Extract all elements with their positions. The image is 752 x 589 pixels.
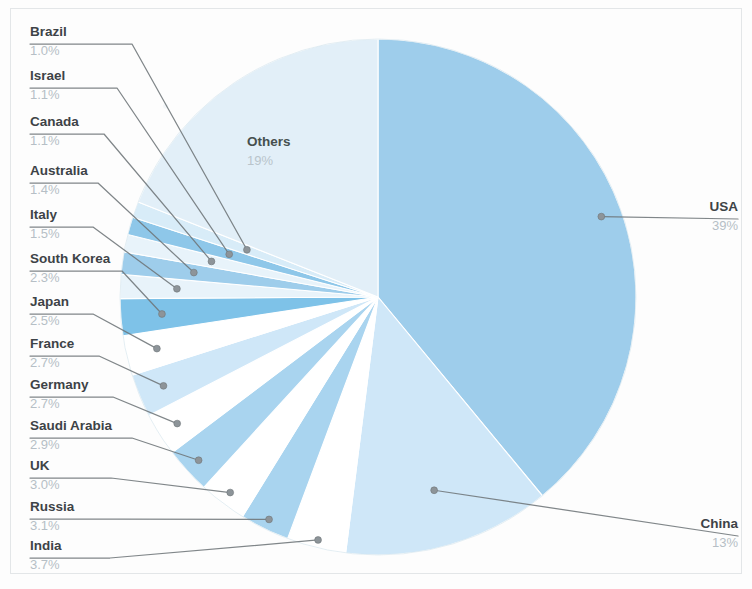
label-australia[interactable]: Australia 1.4% xyxy=(30,163,88,197)
label-japan[interactable]: Japan 2.5% xyxy=(30,294,69,328)
label-uk-pct: 3.0% xyxy=(30,477,60,492)
leader-line-india xyxy=(30,540,318,558)
leader-dot-saudi-arabia xyxy=(195,457,202,464)
label-australia-pct: 1.4% xyxy=(30,182,60,197)
label-japan-pct: 2.5% xyxy=(30,313,60,328)
leader-dot-france xyxy=(160,382,167,389)
pie-chart-screenshot: Brazil 1.0% Israel 1.1% Canada 1.1% Aust… xyxy=(0,0,752,589)
pie-chart: Brazil 1.0% Israel 1.1% Canada 1.1% Aust… xyxy=(0,0,752,589)
leader-dot-israel xyxy=(226,251,233,258)
leader-dot-south-korea xyxy=(159,311,166,318)
label-canada-name: Canada xyxy=(30,114,79,129)
label-others-name: Others xyxy=(247,134,291,149)
leader-dot-canada xyxy=(208,258,215,265)
pie-slices-group xyxy=(120,39,636,555)
label-uk-name: UK xyxy=(30,458,50,473)
leader-dot-usa xyxy=(598,213,605,220)
label-canada-pct: 1.1% xyxy=(30,133,60,148)
label-israel[interactable]: Israel 1.1% xyxy=(30,68,65,102)
leader-dot-china xyxy=(431,487,438,494)
label-south-korea-name: South Korea xyxy=(30,251,111,266)
label-india[interactable]: India 3.7% xyxy=(30,538,62,572)
label-saudi-arabia[interactable]: Saudi Arabia 2.9% xyxy=(30,418,113,452)
label-china-name: China xyxy=(700,516,738,531)
label-japan-name: Japan xyxy=(30,294,69,309)
label-germany-pct: 2.7% xyxy=(30,396,60,411)
label-brazil-name: Brazil xyxy=(30,24,67,39)
label-usa[interactable]: USA 39% xyxy=(709,199,738,233)
label-france-name: France xyxy=(30,336,75,351)
label-germany[interactable]: Germany 2.7% xyxy=(30,377,89,411)
label-canada[interactable]: Canada 1.1% xyxy=(30,114,79,148)
leader-dot-india xyxy=(315,537,322,544)
label-south-korea-pct: 2.3% xyxy=(30,270,60,285)
label-italy[interactable]: Italy 1.5% xyxy=(30,207,60,241)
leader-dot-italy xyxy=(174,285,181,292)
label-south-korea[interactable]: South Korea 2.3% xyxy=(30,251,111,285)
label-italy-pct: 1.5% xyxy=(30,226,60,241)
label-usa-pct: 39% xyxy=(712,218,738,233)
leader-dot-japan xyxy=(154,345,161,352)
leader-dot-russia xyxy=(266,516,273,523)
label-china-pct: 13% xyxy=(712,535,738,550)
label-others-pct: 19% xyxy=(247,153,273,168)
label-usa-name: USA xyxy=(709,199,738,214)
leader-dot-germany xyxy=(174,420,181,427)
label-russia[interactable]: Russia 3.1% xyxy=(30,499,75,533)
leader-dot-uk xyxy=(227,489,234,496)
label-france-pct: 2.7% xyxy=(30,355,60,370)
label-uk[interactable]: UK 3.0% xyxy=(30,458,60,492)
label-russia-name: Russia xyxy=(30,499,75,514)
label-russia-pct: 3.1% xyxy=(30,518,60,533)
label-germany-name: Germany xyxy=(30,377,89,392)
label-india-pct: 3.7% xyxy=(30,557,60,572)
label-saudi-arabia-pct: 2.9% xyxy=(30,437,60,452)
label-india-name: India xyxy=(30,538,62,553)
label-israel-name: Israel xyxy=(30,68,65,83)
leader-dot-brazil xyxy=(244,246,251,253)
leader-dot-australia xyxy=(190,269,197,276)
label-brazil-pct: 1.0% xyxy=(30,43,60,58)
label-saudi-arabia-name: Saudi Arabia xyxy=(30,418,113,433)
label-italy-name: Italy xyxy=(30,207,58,222)
label-israel-pct: 1.1% xyxy=(30,87,60,102)
label-france[interactable]: France 2.7% xyxy=(30,336,75,370)
label-australia-name: Australia xyxy=(30,163,88,178)
label-brazil[interactable]: Brazil 1.0% xyxy=(30,24,67,58)
